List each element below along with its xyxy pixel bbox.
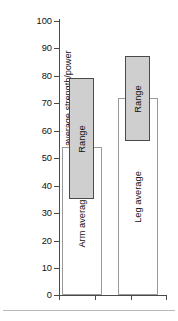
y-tick-10: [54, 268, 60, 269]
y-tick-100: [54, 21, 60, 22]
y-tick-60: [54, 131, 60, 132]
y-tick-70: [54, 103, 60, 104]
y-tick-label-10: 10: [26, 264, 52, 273]
y-tick-20: [54, 241, 60, 242]
range-box-arm-label: Range: [77, 125, 87, 152]
y-tick-label-0: 0: [26, 291, 52, 300]
range-box-leg-label: Range: [133, 85, 143, 112]
y-tick-80: [54, 76, 60, 77]
y-tick-label-100: 100: [26, 17, 52, 26]
y-tick-label-50: 50: [26, 154, 52, 163]
y-tick-label-60: 60: [26, 127, 52, 136]
bar-arm-average-label: Arm average: [77, 194, 87, 247]
bar-leg-average-label: Leg average: [133, 171, 143, 223]
y-tick-label-20: 20: [26, 237, 52, 246]
x-axis-line: [59, 295, 167, 296]
chart-figure: Percentage of men's average strength/pow…: [0, 0, 178, 321]
x-tick-left: [59, 295, 60, 300]
plot-area: 100 90 80 70 60 50 40 30 20 10 0 Arm ave…: [0, 0, 178, 321]
footer-divider: [3, 310, 175, 311]
x-tick-1: [95, 295, 96, 300]
y-tick-label-40: 40: [26, 182, 52, 191]
y-tick-label-70: 70: [26, 99, 52, 108]
range-box-leg: Range: [125, 56, 150, 141]
x-tick-2: [131, 295, 132, 300]
y-tick-40: [54, 186, 60, 187]
y-tick-50: [54, 158, 60, 159]
y-tick-label-80: 80: [26, 72, 52, 81]
y-tick-label-90: 90: [26, 44, 52, 53]
y-tick-90: [54, 48, 60, 49]
y-tick-30: [54, 213, 60, 214]
y-tick-label-30: 30: [26, 209, 52, 218]
x-tick-right: [166, 295, 167, 300]
range-box-arm: Range: [69, 78, 94, 199]
